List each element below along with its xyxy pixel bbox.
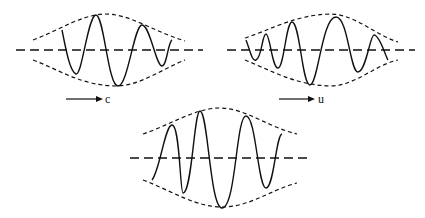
arrow-c <box>66 96 103 102</box>
envelope-lower <box>143 180 297 207</box>
panel-top-left <box>16 14 203 86</box>
panel-bottom-center <box>130 108 310 208</box>
wave-curve <box>152 111 282 208</box>
arrowhead-icon <box>308 96 315 102</box>
panel-top-right <box>227 14 415 86</box>
arrowhead-icon <box>96 96 103 102</box>
envelope-upper <box>143 108 297 134</box>
wave-packet-figure <box>0 0 425 218</box>
label-group-velocity: u <box>318 93 324 105</box>
label-phase-velocity: c <box>105 93 110 105</box>
envelope-upper <box>33 14 185 41</box>
wave-curve <box>246 17 388 85</box>
arrow-u <box>279 96 315 102</box>
envelope-lower <box>245 60 398 86</box>
